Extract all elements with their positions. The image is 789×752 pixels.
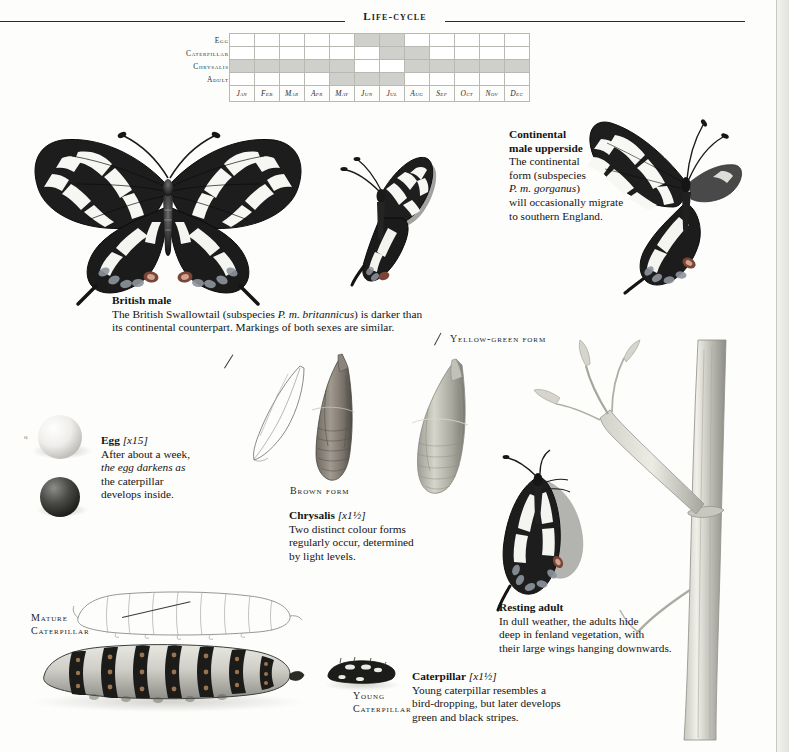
life-cycle-cell xyxy=(254,34,279,47)
life-cycle-cell xyxy=(504,60,529,73)
egg-caption-line2: the egg darkens as xyxy=(101,461,206,475)
british-male-caption-line1: The British Swallowtail (subspecies P. m… xyxy=(112,308,457,322)
life-cycle-cell xyxy=(304,34,329,47)
egg-caption-line1: After about a week, xyxy=(101,448,206,462)
life-cycle-cell xyxy=(504,34,529,47)
caterpillar-caption-title: Caterpillar xyxy=(412,670,466,682)
mature-caterpillar-illustration xyxy=(28,640,308,715)
brown-form-label: Brown form xyxy=(290,484,349,497)
life-cycle-row-label: Caterpillar xyxy=(186,47,229,60)
life-cycle-cell xyxy=(354,34,379,47)
life-cycle-cell xyxy=(279,47,304,60)
life-cycle-cell xyxy=(254,60,279,73)
chrysalis-caption-line2: regularly occur, determined xyxy=(289,536,439,550)
chrysalis-caption-line1: Two distinct colour forms xyxy=(289,523,439,537)
page-title: Life-cycle xyxy=(345,10,445,22)
continental-caption-line2: form (subspecies xyxy=(509,169,659,183)
continental-caption-line5: to southern England. xyxy=(509,210,659,224)
life-cycle-cell xyxy=(404,73,429,86)
british-male-caption-line2: its continental counterpart. Markings of… xyxy=(112,321,457,335)
life-cycle-cell xyxy=(479,47,504,60)
life-cycle-cell xyxy=(429,73,454,86)
life-cycle-month-label: Dec xyxy=(504,86,529,102)
life-cycle-cell xyxy=(479,60,504,73)
life-cycle-row-label: Chrysalis xyxy=(186,60,229,73)
life-cycle-row-label: Adult xyxy=(186,73,229,86)
egg-illustrations: o xyxy=(22,405,102,525)
life-cycle-cell xyxy=(504,47,529,60)
chrysalis-caption-line3: by light levels. xyxy=(289,550,439,564)
life-cycle-cell xyxy=(404,60,429,73)
life-cycle-cell xyxy=(404,47,429,60)
egg-caption: Egg [x15] After about a week, the egg da… xyxy=(101,434,206,502)
caterpillar-caption: Caterpillar [x1½] Young caterpillar rese… xyxy=(412,670,602,724)
life-cycle-cell xyxy=(379,60,404,73)
svg-text:o: o xyxy=(24,433,28,441)
brown-form-chrysalis-illustration xyxy=(296,350,366,490)
life-cycle-month-label: Nov xyxy=(479,86,504,102)
page-edge-shading xyxy=(777,0,789,752)
life-cycle-month-label: Oct xyxy=(454,86,479,102)
mature-caterpillar-label: Mature Caterpillar xyxy=(31,611,111,637)
life-cycle-cell xyxy=(504,73,529,86)
life-cycle-cell xyxy=(279,73,304,86)
caterpillar-caption-line3: green and black stripes. xyxy=(412,711,602,725)
yellow-green-form-label: Yellow-green form xyxy=(450,332,546,345)
life-cycle-cell xyxy=(304,60,329,73)
life-cycle-row-label: Egg xyxy=(186,34,229,47)
egg-caption-title-line: Egg [x15] xyxy=(101,434,206,448)
field-guide-page: Life-cycle EggCaterpillarChrysalisAdultJ… xyxy=(0,0,789,752)
chrysalis-caption-title: Chrysalis xyxy=(289,509,335,521)
life-cycle-row: Chrysalis xyxy=(186,60,529,73)
continental-caption-line4: will occasionally migrate xyxy=(509,196,659,210)
life-cycle-cell xyxy=(454,73,479,86)
life-cycle-cell xyxy=(329,47,354,60)
life-cycle-cell xyxy=(229,60,254,73)
life-cycle-cell xyxy=(229,73,254,86)
life-cycle-row: Caterpillar xyxy=(186,47,529,60)
life-cycle-month-label: May xyxy=(329,86,354,102)
chrysalis-caption-title-line: Chrysalis [x1½] xyxy=(289,509,439,523)
mature-caterpillar-label-line1: Mature xyxy=(31,611,111,624)
species-name-britannicus: P. m. britannicus xyxy=(278,308,354,320)
side-view-butterfly-illustration xyxy=(320,140,450,290)
resting-adult-caption-line1: In dull weather, the adults hide xyxy=(499,615,714,629)
header-rule-left xyxy=(0,21,345,22)
life-cycle-cell xyxy=(354,47,379,60)
chrysalis-caption: Chrysalis [x1½] Two distinct colour form… xyxy=(289,509,439,563)
british-male-caption-title: British male xyxy=(112,294,457,308)
life-cycle-cell xyxy=(304,47,329,60)
continental-caption-title-line1: Continental xyxy=(509,128,659,142)
life-cycle-cell xyxy=(354,60,379,73)
caterpillar-caption-line1: Young caterpillar resembles a xyxy=(412,684,602,698)
life-cycle-cell xyxy=(404,34,429,47)
caterpillar-magnification: [x1½] xyxy=(469,670,497,682)
section-header: Life-cycle xyxy=(0,10,770,32)
life-cycle-cell xyxy=(379,34,404,47)
life-cycle-cell xyxy=(354,73,379,86)
life-cycle-cell xyxy=(329,60,354,73)
life-cycle-cell xyxy=(279,34,304,47)
header-rule-right xyxy=(445,21,745,22)
resting-adult-caption-line3: their large wings hanging downwards. xyxy=(499,642,714,656)
life-cycle-month-label: Sep xyxy=(429,86,454,102)
continental-caption-line1: The continental xyxy=(509,155,659,169)
egg-caption-title: Egg xyxy=(101,434,120,446)
life-cycle-cell xyxy=(454,34,479,47)
british-male-butterfly-illustration xyxy=(18,92,318,307)
life-cycle-row: Adult xyxy=(186,73,529,86)
continental-male-caption: Continental male upperside The continent… xyxy=(509,128,659,223)
life-cycle-cell xyxy=(279,60,304,73)
species-name-gorganus: P. m. gorganus xyxy=(509,182,576,194)
caterpillar-caption-line2: bird-dropping, but later develops xyxy=(412,697,602,711)
life-cycle-cell xyxy=(304,73,329,86)
life-cycle-cell xyxy=(254,73,279,86)
life-cycle-cell xyxy=(379,47,404,60)
life-cycle-cell xyxy=(479,73,504,86)
life-cycle-month-label: Aug xyxy=(404,86,429,102)
life-cycle-cell xyxy=(379,73,404,86)
life-cycle-cell xyxy=(429,60,454,73)
egg-magnification: [x15] xyxy=(123,434,148,446)
life-cycle-cell xyxy=(429,47,454,60)
life-cycle-cell xyxy=(454,47,479,60)
